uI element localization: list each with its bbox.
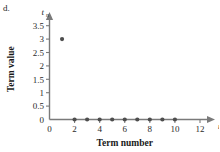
data-point (160, 117, 164, 121)
x-tick-label: 2 (72, 124, 77, 134)
y-tick-label: 3 (40, 34, 45, 44)
x-tick-label: 0 (47, 124, 52, 134)
data-point (60, 37, 64, 41)
data-point (173, 117, 177, 121)
scatter-plot: 02468101200.511.522.533.5 tnn Term numbe… (0, 0, 219, 152)
y-axis-variable-subscript: n (46, 12, 49, 18)
y-tick-label: 2.5 (33, 48, 45, 58)
x-axis-variable: n (218, 121, 219, 131)
y-tick-label: 1.5 (33, 75, 45, 85)
y-tick-label: 3.5 (33, 21, 45, 31)
y-tick-label: 0.5 (33, 101, 45, 111)
data-point (72, 117, 76, 121)
figure-container: d. 02468101200.511.522.533.5 tnn Term nu… (0, 0, 219, 152)
axis-titles: Term numberTerm value (6, 46, 154, 148)
x-tick-label: 4 (97, 124, 102, 134)
x-axis-title: Term number (97, 138, 154, 148)
y-tick-label: 0 (40, 115, 45, 125)
y-axis-variable: t (42, 7, 45, 17)
ticks-group (46, 26, 200, 123)
axis-variable-labels: tnn (42, 7, 220, 131)
y-axis-title: Term value (6, 46, 16, 92)
x-tick-label: 8 (148, 124, 153, 134)
tick-labels-group: 02468101200.511.522.533.5 (33, 21, 205, 134)
data-point (135, 117, 139, 121)
data-point (123, 117, 127, 121)
data-point (98, 117, 102, 121)
data-points-group (60, 37, 177, 122)
x-tick-label: 10 (170, 124, 180, 134)
x-tick-label: 6 (123, 124, 128, 134)
data-point (85, 117, 89, 121)
axes-group (46, 12, 215, 123)
x-tick-label: 12 (196, 124, 205, 134)
data-point (110, 117, 114, 121)
x-axis-arrow (207, 116, 215, 123)
y-tick-label: 1 (40, 88, 45, 98)
y-tick-label: 2 (40, 61, 45, 71)
data-point (148, 117, 152, 121)
